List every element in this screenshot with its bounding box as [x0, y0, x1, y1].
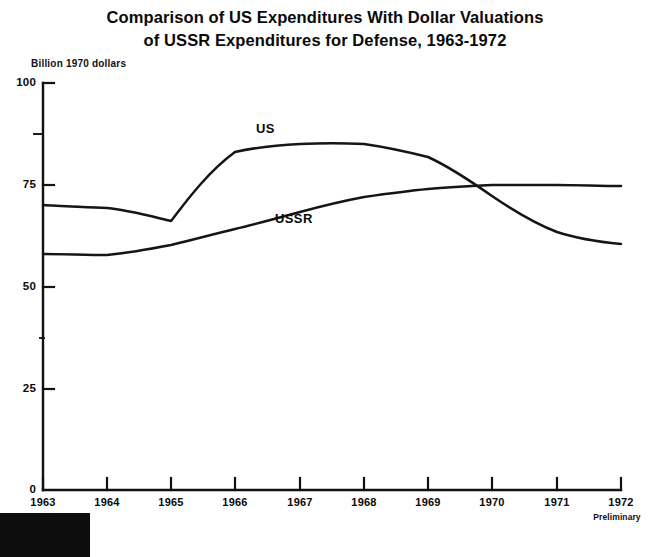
- y-axis-major-ticks: [43, 83, 54, 389]
- x-tick-label-1967: 1967: [273, 496, 327, 508]
- preliminary-footnote: Preliminary: [584, 512, 650, 522]
- scan-artifact-black-bar: [0, 513, 90, 557]
- series-label-us: US: [256, 121, 275, 136]
- x-tick-label-1965: 1965: [144, 496, 198, 508]
- y-tick-label-0: 0: [2, 483, 36, 495]
- x-tick-label-1964: 1964: [80, 496, 134, 508]
- y-tick-label-100: 100: [2, 76, 36, 88]
- x-tick-label-1966: 1966: [208, 496, 262, 508]
- x-axis-ticks: [43, 478, 621, 490]
- series-line-ussr: [43, 185, 621, 255]
- series-line-us: [43, 143, 621, 244]
- y-tick-label-25: 25: [2, 382, 36, 394]
- x-tick-label-1963: 1963: [16, 496, 70, 508]
- x-tick-label-1971: 1971: [530, 496, 584, 508]
- chart-figure: Comparison of US Expenditures With Dolla…: [0, 0, 650, 557]
- y-tick-label-75: 75: [2, 178, 36, 190]
- x-tick-label-1968: 1968: [337, 496, 391, 508]
- y-tick-label-50: 50: [2, 280, 36, 292]
- x-tick-label-1970: 1970: [465, 496, 519, 508]
- series-label-ussr: USSR: [275, 211, 313, 226]
- x-tick-label-1972: 1972: [594, 496, 648, 508]
- x-tick-label-1969: 1969: [401, 496, 455, 508]
- plot-area: [0, 0, 650, 557]
